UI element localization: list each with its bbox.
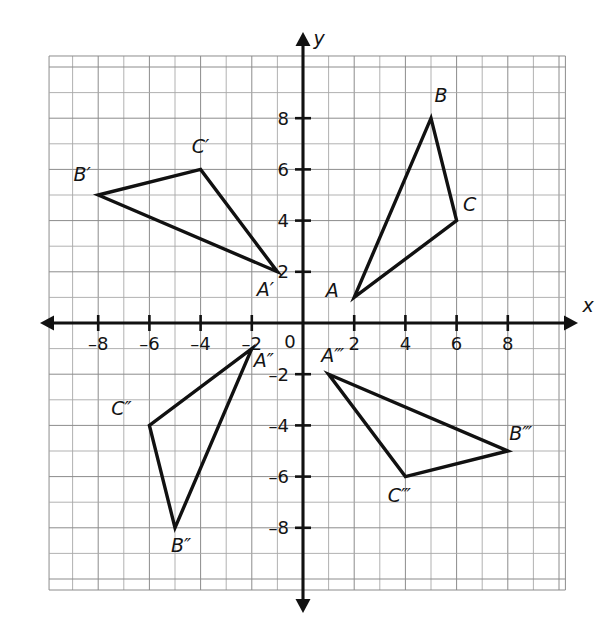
vertex-label: C″	[111, 397, 131, 419]
x-axis-label: x	[581, 294, 594, 316]
vertex-label: C′	[192, 135, 210, 157]
vertex-label: B′	[74, 163, 92, 185]
y-axis-tick-label: –6	[269, 466, 289, 487]
x-axis-tick-label: –6	[139, 333, 159, 354]
vertex-label: B	[434, 84, 447, 106]
y-axis-tick-label: 6	[278, 159, 289, 180]
y-axis-tick-label: –4	[269, 415, 289, 436]
vertex-label: A′	[255, 278, 275, 300]
vertex-label: A‴	[319, 344, 344, 366]
x-axis-tick-label: 2	[348, 333, 359, 354]
x-axis-tick-label: 8	[502, 333, 513, 354]
x-axis-tick-label: –4	[190, 333, 210, 354]
x-axis-tick-label: 4	[400, 333, 411, 354]
origin-label: 0	[284, 331, 295, 352]
y-axis-tick-label: 4	[278, 210, 289, 231]
y-axis-tick-label: –8	[269, 517, 289, 538]
coordinate-plane-figure: –8–6–4–224688642–2–4–6–8 ABCA′B′C′A″B″C″…	[0, 0, 615, 638]
x-axis-arrow-right	[564, 316, 578, 331]
vertex-label: B″	[171, 534, 191, 556]
vertex-label: C	[463, 193, 477, 215]
vertex-label: A	[324, 279, 339, 301]
y-axis-arrow-down	[296, 599, 311, 613]
x-axis-tick-label: 6	[451, 333, 462, 354]
x-axis-arrow-left	[40, 316, 54, 331]
y-axis-tick-label: 8	[278, 108, 289, 129]
axis-names: x y 0	[284, 27, 594, 352]
vertex-label: B‴	[509, 422, 532, 444]
vertex-label: C‴	[388, 484, 411, 506]
x-axis-tick-label: –8	[88, 333, 108, 354]
vertex-label: A″	[252, 349, 274, 371]
y-axis-label: y	[312, 27, 325, 49]
y-axis-arrow-up	[296, 32, 311, 46]
